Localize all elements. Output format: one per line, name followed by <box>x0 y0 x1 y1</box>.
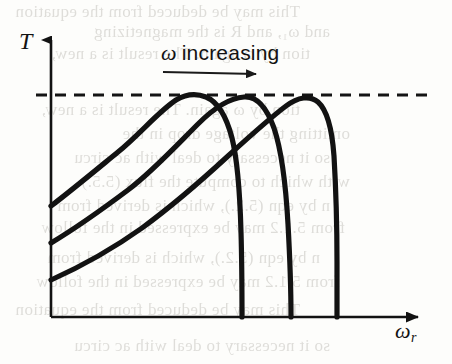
omega-symbol: ω <box>161 40 177 65</box>
x-axis-label: ωr <box>395 318 417 346</box>
omega-increasing-arrow <box>163 72 256 74</box>
x-axis-label-subscript: r <box>411 330 416 345</box>
omega-increasing-text: increasing <box>182 41 280 64</box>
figure-container: This may be deduced from the equation an… <box>0 0 452 364</box>
x-axis-label-base: ω <box>395 318 411 343</box>
torque-curve-1 <box>51 95 242 317</box>
omega-increasing-annotation: ωincreasing <box>161 40 279 66</box>
y-axis-label: T <box>19 28 32 55</box>
